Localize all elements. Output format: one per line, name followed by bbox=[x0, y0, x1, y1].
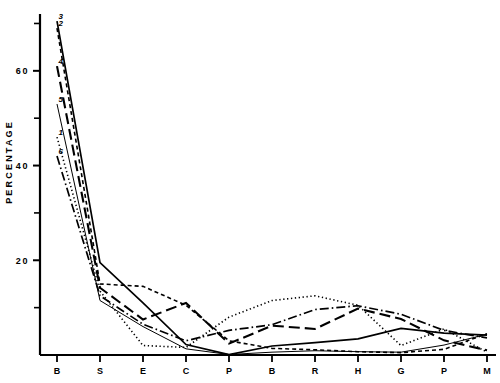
x-tick-label-9: P bbox=[441, 366, 447, 376]
series-label-3: 3 bbox=[59, 12, 64, 21]
x-tick-label-0: B bbox=[54, 366, 61, 376]
series-label-6: 6 bbox=[59, 147, 64, 156]
series-label-5: 5 bbox=[59, 95, 64, 104]
x-tick-label-5: B bbox=[269, 366, 276, 376]
x-tick-label-7: H bbox=[355, 366, 362, 376]
x-tick-label-2: E bbox=[140, 366, 146, 376]
y-tick-label: 60 bbox=[16, 66, 29, 76]
chart-figure: PERCENTAGE 604020 BSECPBRHGPM 123456 bbox=[0, 0, 500, 383]
series-line-5 bbox=[57, 104, 487, 355]
line-chart-plot: 604020 BSECPBRHGPM 123456 bbox=[0, 0, 500, 383]
series-line-1 bbox=[57, 137, 487, 352]
y-tick-label: 20 bbox=[16, 256, 29, 266]
x-tick-label-1: S bbox=[97, 366, 103, 376]
x-tick-label-3: C bbox=[183, 366, 190, 376]
series-line-4 bbox=[57, 66, 487, 350]
x-axis-tick-labels: BSECPBRHGPM bbox=[54, 366, 491, 376]
series-line-3 bbox=[57, 21, 487, 354]
x-tick-label-8: G bbox=[397, 366, 404, 376]
y-axis-title: PERCENTAGE bbox=[4, 120, 20, 204]
x-tick-label-4: P bbox=[226, 366, 232, 376]
series-label-4: 4 bbox=[58, 57, 64, 66]
series-line-2 bbox=[57, 28, 487, 352]
series-label-1: 1 bbox=[59, 128, 64, 137]
x-tick-label-6: R bbox=[312, 366, 319, 376]
x-tick-label-10: M bbox=[483, 366, 491, 376]
series-lines bbox=[57, 21, 487, 354]
axes bbox=[33, 14, 496, 362]
